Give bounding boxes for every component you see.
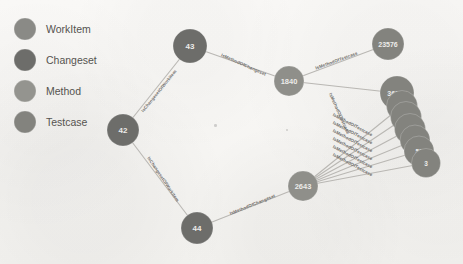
legend-item-workitem[interactable]: WorkItem <box>14 18 97 40</box>
edge-label: IsMethodOfTestcase <box>315 50 359 70</box>
graph-canvas[interactable]: IsChangesetOfWorkitemIsChangesetOfWorkit… <box>0 0 463 264</box>
legend: WorkItemChangesetMethodTestcase <box>14 18 97 133</box>
graph-node[interactable]: 2643 <box>288 171 318 201</box>
edge-label: IsChangesetOfWorkitem <box>140 69 177 113</box>
legend-color-swatch <box>14 18 36 40</box>
background-speck <box>286 129 288 131</box>
background-speck <box>214 124 217 127</box>
node-label: 1840 <box>281 77 298 86</box>
edges-layer <box>123 44 426 228</box>
edge-label: IsMethodOfChangeset <box>229 193 276 216</box>
legend-item-changeset[interactable]: Changeset <box>14 49 97 71</box>
legend-item-label: Testcase <box>46 116 87 128</box>
legend-item-testcase[interactable]: Testcase <box>14 111 97 133</box>
node-label: 43 <box>186 42 195 51</box>
edge-labels-layer: IsChangesetOfWorkitemIsChangesetOfWorkit… <box>140 50 374 216</box>
legend-item-label: Method <box>46 85 81 97</box>
graph-node[interactable]: 3 <box>412 149 441 178</box>
legend-color-swatch <box>14 111 36 133</box>
node-label: 23576 <box>378 41 398 48</box>
graph-edge <box>303 163 426 186</box>
node-label: 2643 <box>295 182 312 191</box>
node-label: 44 <box>193 224 202 233</box>
graph-node[interactable]: 43 <box>173 29 207 63</box>
graph-node[interactable]: 44 <box>181 212 213 244</box>
graph-node[interactable]: 42 <box>107 114 139 146</box>
edge-label: IsMethodOfChangeset <box>220 52 267 76</box>
graph-node[interactable]: 1840 <box>274 66 304 96</box>
graph-node[interactable]: 23576 <box>372 28 404 60</box>
node-label: 42 <box>119 126 128 135</box>
nodes-layer[interactable]: 434244184026432357636143403513 <box>107 28 441 244</box>
legend-item-method[interactable]: Method <box>14 80 97 102</box>
legend-color-swatch <box>14 80 36 102</box>
node-label: 3 <box>424 160 428 167</box>
legend-color-swatch <box>14 49 36 71</box>
graph-edge <box>303 140 415 186</box>
legend-item-label: Changeset <box>46 54 97 66</box>
edge-label: IsChangesetOfWorkitem <box>146 156 180 203</box>
graph-edge <box>123 130 197 228</box>
legend-item-label: WorkItem <box>46 23 91 35</box>
